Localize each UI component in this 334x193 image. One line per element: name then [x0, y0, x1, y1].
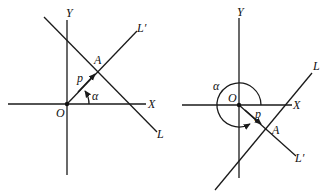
p-label: p: [76, 71, 83, 85]
origin-label: O: [56, 106, 65, 120]
alpha-label: α: [92, 89, 99, 103]
l-prime-label: L′: [136, 21, 147, 35]
figure: Y X O L L′ A p α Y X O L L′ A p α: [0, 0, 334, 193]
y-label: Y: [237, 5, 245, 19]
origin-dot: [65, 102, 69, 106]
a-label: A: [93, 53, 102, 67]
right-diagram: Y X O L L′ A p α: [182, 5, 320, 190]
origin-label: O: [228, 91, 237, 105]
p-label: p: [254, 107, 261, 121]
a-label: A: [271, 123, 280, 137]
origin-dot: [237, 103, 241, 107]
line-l-prime: [67, 31, 137, 104]
left-diagram: Y X O L L′ A p α: [8, 6, 164, 175]
l-prime-label: L′: [294, 151, 305, 165]
l-label: L: [312, 59, 320, 73]
alpha-label: α: [213, 79, 220, 93]
x-label: X: [292, 98, 301, 112]
alpha-arc: [85, 91, 89, 104]
x-label: X: [147, 97, 156, 111]
l-label: L: [156, 127, 164, 141]
y-label: Y: [66, 6, 74, 20]
